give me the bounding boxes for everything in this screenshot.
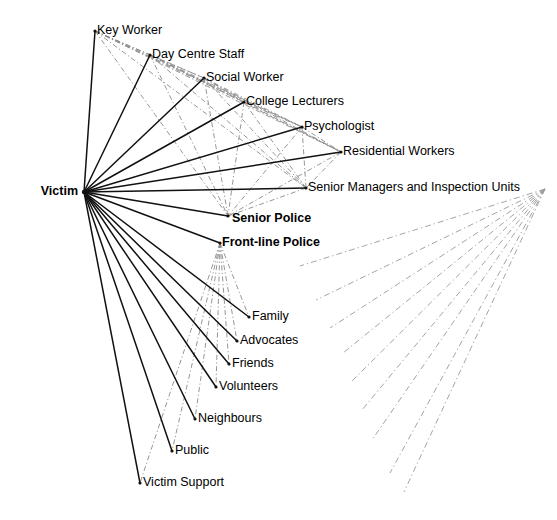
right-fan-edge-layer [300,189,545,492]
dashed-edge-front-line-police-to-volunteers [216,243,220,387]
node-dot-victim[interactable] [82,190,86,194]
node-dot-volunteers[interactable] [214,385,217,388]
node-label-senior-managers[interactable]: Senior Managers and Inspection Units [308,180,520,194]
right-fan-edge-1 [300,189,545,266]
node-label-victim[interactable]: Victim [41,184,78,198]
node-label-volunteers[interactable]: Volunteers [219,379,278,393]
right-fan-edge-7 [372,189,545,440]
network-canvas: VictimKey WorkerDay Centre StaffSocial W… [0,0,557,520]
node-label-victim-support[interactable]: Victim Support [143,475,225,489]
node-label-neighbours[interactable]: Neighbours [198,411,262,425]
dashed-edge-social-worker-to-senior-police [204,78,228,216]
node-dot-senior-police[interactable] [226,214,229,217]
node-label-family[interactable]: Family [252,309,290,323]
solid-edge-victim-to-victim-support [84,192,140,483]
node-dot-friends[interactable] [227,362,230,365]
label-layer: VictimKey WorkerDay Centre StaffSocial W… [41,23,520,489]
node-label-public[interactable]: Public [175,443,209,457]
node-label-front-line-police[interactable]: Front-line Police [222,235,320,249]
right-fan-edge-5 [352,189,545,381]
right-fan-edge-8 [390,189,545,473]
node-label-senior-police[interactable]: Senior Police [232,211,311,225]
solid-edge-victim-to-public [84,192,172,451]
right-fan-edge-6 [362,189,545,410]
node-label-advocates[interactable]: Advocates [240,333,298,347]
node-label-psychologist[interactable]: Psychologist [304,119,375,133]
solid-edge-victim-to-key-worker [84,31,95,192]
solid-edge-victim-to-volunteers [84,192,216,387]
solid-edge-victim-to-senior-managers [84,188,306,192]
solid-edge-victim-to-residential-workers [84,152,341,192]
right-fan-edge-2 [316,189,545,300]
solid-edge-victim-to-psychologist [84,127,302,192]
node-label-key-worker[interactable]: Key Worker [97,23,162,37]
dashed-edge-college-lecturers-to-senior-police [228,102,244,216]
node-label-residential-workers[interactable]: Residential Workers [343,144,455,158]
right-fan-edge-4 [343,189,545,353]
solid-edge-victim-to-day-centre-staff [84,55,150,192]
node-label-friends[interactable]: Friends [232,356,274,370]
sociogram-diagram: VictimKey WorkerDay Centre StaffSocial W… [0,0,557,520]
node-label-social-worker[interactable]: Social Worker [206,70,284,84]
solid-edge-victim-to-neighbours [84,192,195,419]
dashed-edge-front-line-police-to-friends [220,243,229,364]
solid-edge-victim-to-friends [84,192,229,364]
node-dot-public[interactable] [170,449,173,452]
node-label-day-centre-staff[interactable]: Day Centre Staff [152,47,245,61]
node-label-college-lecturers[interactable]: College Lecturers [246,94,344,108]
node-dot-family[interactable] [247,315,250,318]
node-dot-advocates[interactable] [235,339,238,342]
dashed-edge-front-line-police-to-neighbours [195,243,220,419]
node-dot-victim-support[interactable] [138,481,141,484]
node-dot-neighbours[interactable] [193,417,196,420]
